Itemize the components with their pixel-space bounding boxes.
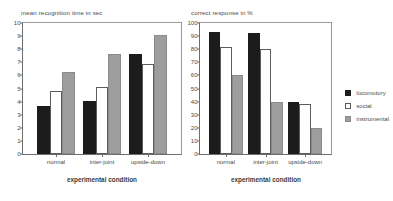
x-axis-title-left: experimental condition — [67, 176, 137, 183]
bar-social — [50, 91, 63, 154]
bar-locomotory — [37, 106, 50, 154]
bar-series-left — [23, 23, 181, 154]
bar-group — [125, 23, 171, 154]
bar-instrumental — [154, 35, 167, 154]
legend-item-locomotory: locomotory — [345, 86, 389, 99]
y-axis-tick-mark-right — [197, 75, 200, 76]
y-axis-tick-label-right: 100 — [187, 20, 197, 26]
bar-instrumental — [311, 128, 323, 154]
legend-swatch-social — [345, 103, 351, 109]
bar-locomotory — [83, 101, 96, 154]
y-axis-tick-mark-left — [20, 36, 23, 37]
x-axis-category-label: upside-down — [288, 159, 322, 165]
bar-locomotory — [288, 102, 300, 154]
bar-instrumental — [108, 54, 121, 154]
x-axis-tick-mark — [102, 154, 103, 157]
x-axis-title-right: experimental condition — [231, 176, 301, 183]
y-axis-tick-mark-left — [20, 154, 23, 155]
bar-group — [246, 23, 286, 154]
bar-group — [206, 23, 246, 154]
y-axis-tick-mark-right — [197, 154, 200, 155]
x-axis-category-label: normal — [47, 159, 65, 165]
bar-group — [285, 23, 325, 154]
y-axis-tick-mark-left — [20, 23, 23, 24]
legend-label-locomotory: locomotory — [356, 90, 385, 96]
x-axis-tick-mark — [226, 154, 227, 157]
legend: locomotorysocialinstrumental — [345, 86, 389, 125]
bar-instrumental — [271, 102, 283, 154]
chart-panel-recognition-time: mean recognition time in sec 10987654321… — [0, 0, 193, 201]
y-axis-tick-mark-left — [20, 49, 23, 50]
legend-swatch-locomotory — [345, 90, 351, 96]
plot-area-left: 109876543210normalinter-jointupside-down — [22, 22, 182, 155]
legend-item-instrumental: instrumental — [345, 112, 389, 125]
y-axis-tick-mark-left — [20, 127, 23, 128]
legend-swatch-instrumental — [345, 116, 351, 122]
y-axis-tick-mark-left — [20, 75, 23, 76]
y-axis-tick-mark-right — [197, 114, 200, 115]
bar-group — [79, 23, 125, 154]
y-axis-tick-mark-right — [197, 88, 200, 89]
bar-social — [96, 87, 109, 154]
x-axis-tick-mark — [148, 154, 149, 157]
figure-two-bar-charts: mean recognition time in sec 10987654321… — [0, 0, 393, 201]
y-axis-tick-mark-right — [197, 23, 200, 24]
x-axis-category-label: upside-down — [131, 159, 165, 165]
bar-social — [260, 49, 272, 154]
x-axis-tick-mark — [56, 154, 57, 157]
plot-area-right: 1009080706050403020100normalinter-jointu… — [199, 22, 332, 155]
x-axis-category-label: normal — [217, 159, 235, 165]
y-axis-tick-mark-left — [20, 101, 23, 102]
bar-social — [220, 47, 232, 154]
y-axis-tick-mark-left — [20, 88, 23, 89]
x-axis-tick-mark — [266, 154, 267, 157]
bar-locomotory — [248, 33, 260, 154]
x-axis-category-label: inter-joint — [253, 159, 278, 165]
legend-item-social: social — [345, 99, 389, 112]
y-axis-tick-mark-left — [20, 62, 23, 63]
chart-title-left: mean recognition time in sec — [21, 9, 103, 16]
y-axis-tick-mark-right — [197, 101, 200, 102]
y-axis-tick-mark-right — [197, 36, 200, 37]
y-axis-tick-mark-right — [197, 62, 200, 63]
bar-series-right — [200, 23, 331, 154]
y-axis-tick-mark-left — [20, 140, 23, 141]
y-axis-tick-mark-right — [197, 140, 200, 141]
x-axis-tick-mark — [305, 154, 306, 157]
bar-instrumental — [232, 75, 244, 154]
y-axis-tick-mark-right — [197, 49, 200, 50]
y-axis-tick-mark-right — [197, 127, 200, 128]
legend-label-social: social — [356, 103, 371, 109]
bar-group — [33, 23, 79, 154]
chart-title-right: correct response in % — [191, 9, 253, 16]
bar-locomotory — [129, 54, 142, 154]
y-axis-tick-mark-left — [20, 114, 23, 115]
legend-label-instrumental: instrumental — [356, 116, 389, 122]
bar-instrumental — [62, 72, 75, 154]
x-axis-category-label: inter-joint — [90, 159, 115, 165]
bar-social — [142, 64, 155, 154]
bar-locomotory — [209, 32, 221, 154]
bar-social — [299, 104, 311, 154]
